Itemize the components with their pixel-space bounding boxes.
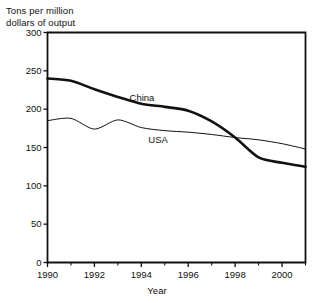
plot-area (0, 0, 314, 303)
y-tick-label-50: 50 (8, 218, 42, 229)
series-line-usa (48, 118, 306, 149)
x-tick-label-1998: 1998 (215, 269, 255, 280)
x-tick-label-1996: 1996 (168, 269, 208, 280)
x-tick-label-1990: 1990 (28, 269, 68, 280)
series-label-china: China (130, 92, 155, 103)
y-tick-label-100: 100 (8, 180, 42, 191)
x-tick-label-2000: 2000 (262, 269, 302, 280)
y-tick-label-0: 0 (8, 257, 42, 268)
x-tick-label-1992: 1992 (74, 269, 114, 280)
x-tick-label-1994: 1994 (121, 269, 161, 280)
series-label-usa: USA (148, 134, 168, 145)
y-tick-label-150: 150 (8, 142, 42, 153)
chart-container: Tons per million dollars of output 05010… (0, 0, 314, 303)
axis-frame (48, 33, 306, 263)
series-line-china (48, 79, 306, 167)
x-axis-title: Year (0, 285, 314, 297)
y-tick-label-300: 300 (8, 27, 42, 38)
y-tick-label-200: 200 (8, 103, 42, 114)
y-tick-label-250: 250 (8, 65, 42, 76)
